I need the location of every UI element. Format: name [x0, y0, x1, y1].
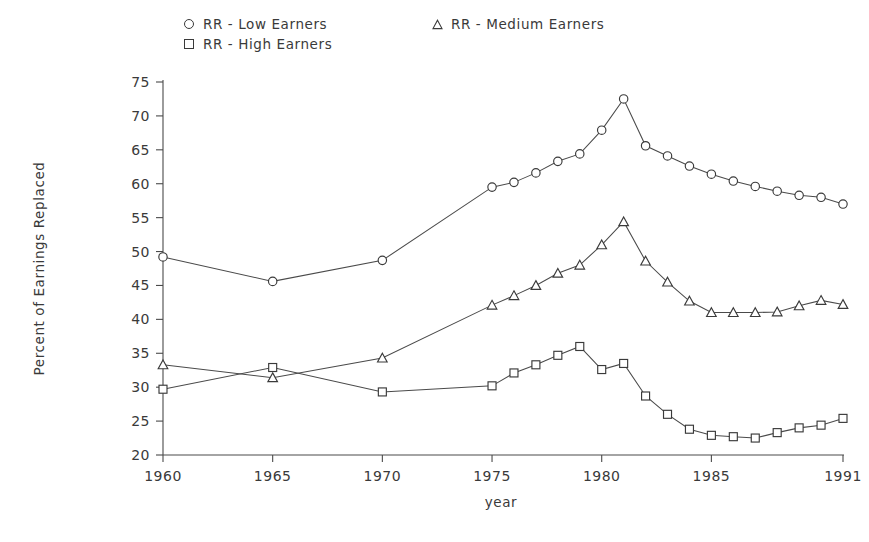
- data-point-square: [488, 382, 496, 390]
- data-point-square: [378, 388, 386, 396]
- axis-labels-layer: 2025303540455055606570751960196519701975…: [31, 74, 862, 510]
- y-tick-label: 70: [131, 108, 150, 124]
- series-layer: [158, 95, 848, 442]
- chart-canvas: 2025303540455055606570751960196519701975…: [0, 0, 869, 542]
- data-point-square: [685, 425, 693, 433]
- y-tick-label: 65: [131, 142, 150, 158]
- data-point-circle: [795, 191, 803, 199]
- series-square: [159, 342, 847, 442]
- data-point-square: [159, 385, 167, 393]
- y-tick-label: 35: [131, 345, 150, 361]
- data-point-circle: [554, 157, 562, 165]
- data-point-circle: [751, 182, 759, 190]
- data-point-square: [664, 410, 672, 418]
- y-tick-label: 55: [131, 210, 150, 226]
- data-point-circle: [488, 183, 496, 191]
- data-point-square: [269, 364, 277, 372]
- data-point-circle: [532, 169, 540, 177]
- y-tick-label: 60: [131, 176, 150, 192]
- data-point-circle: [729, 177, 737, 185]
- series-triangle: [158, 217, 848, 382]
- y-axis-title: Percent of Earnings Replaced: [31, 161, 47, 375]
- data-point-circle: [619, 95, 627, 103]
- data-point-circle: [817, 193, 825, 201]
- chart-page: RR - Low Earners RR - High Earners RR - …: [0, 0, 869, 542]
- data-point-circle: [378, 256, 386, 264]
- data-point-square: [642, 392, 650, 400]
- data-point-triangle: [509, 291, 519, 300]
- data-point-circle: [707, 170, 715, 178]
- data-point-triangle: [619, 217, 629, 226]
- data-point-circle: [839, 200, 847, 208]
- data-point-square: [751, 434, 759, 442]
- data-point-square: [532, 361, 540, 369]
- data-point-square: [576, 342, 584, 350]
- x-tick-label: 1970: [364, 468, 402, 484]
- x-tick-label: 1985: [693, 468, 731, 484]
- data-point-circle: [598, 126, 606, 134]
- data-point-triangle: [487, 300, 497, 309]
- data-point-circle: [773, 187, 781, 195]
- x-tick-label: 1991: [824, 468, 862, 484]
- data-point-triangle: [531, 281, 541, 290]
- data-point-square: [839, 414, 847, 422]
- data-point-square: [773, 429, 781, 437]
- data-point-circle: [268, 277, 276, 285]
- y-tick-label: 50: [131, 244, 150, 260]
- data-point-circle: [663, 152, 671, 160]
- x-axis-title: year: [485, 494, 518, 510]
- y-tick-label: 75: [131, 74, 150, 90]
- y-tick-label: 30: [131, 379, 150, 395]
- data-point-circle: [510, 178, 518, 186]
- series-line-triangle: [163, 222, 843, 378]
- axes-layer: [156, 80, 844, 462]
- data-point-circle: [641, 142, 649, 150]
- data-point-triangle: [158, 360, 168, 369]
- data-point-square: [729, 433, 737, 441]
- y-tick-label: 45: [131, 277, 150, 293]
- data-point-triangle: [816, 296, 826, 305]
- x-tick-label: 1975: [473, 468, 511, 484]
- data-point-triangle: [553, 268, 563, 277]
- data-point-square: [707, 431, 715, 439]
- data-point-square: [620, 359, 628, 367]
- data-point-square: [554, 351, 562, 359]
- series-line-circle: [163, 99, 843, 281]
- x-tick-label: 1960: [144, 468, 182, 484]
- x-tick-label: 1980: [583, 468, 621, 484]
- data-point-triangle: [641, 256, 651, 265]
- x-tick-label: 1965: [254, 468, 292, 484]
- y-tick-label: 25: [131, 413, 150, 429]
- plot-area: 2025303540455055606570751960196519701975…: [0, 0, 869, 542]
- data-point-square: [510, 369, 518, 377]
- data-point-triangle: [378, 353, 388, 362]
- y-tick-label: 20: [131, 447, 150, 463]
- data-point-circle: [685, 162, 693, 170]
- series-line-square: [163, 346, 843, 438]
- data-point-square: [795, 424, 803, 432]
- y-tick-label: 40: [131, 311, 150, 327]
- data-point-square: [817, 421, 825, 429]
- data-point-circle: [159, 253, 167, 261]
- data-point-square: [598, 366, 606, 374]
- data-point-circle: [576, 150, 584, 158]
- series-circle: [159, 95, 847, 286]
